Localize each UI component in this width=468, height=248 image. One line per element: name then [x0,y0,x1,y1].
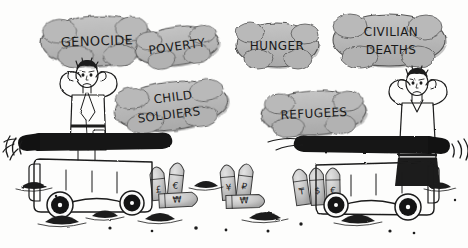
shell-won-b: ₩ [226,194,265,208]
word-bubble-hunger: HUNGER [236,23,320,69]
bubble-label-genocide: GENOCIDE [60,32,133,50]
bubble-label-civilian: CIVILIAN [364,25,418,39]
bubble-label-hunger: HUNGER [250,39,304,53]
shell-won-a: ₩ [159,192,198,208]
bubble-label-deaths: DEATHS [366,43,416,57]
shell-dollar: $ [309,168,326,206]
shell-currency-glyph: ¥ [225,182,232,192]
word-bubble-civilian-deaths: CIVILIAN DEATHS [333,14,447,68]
cartoon-illustration: GENOCIDE POVERTY [0,0,468,248]
shell-currency-glyph: ₩ [172,194,182,204]
cartoon-canvas: GENOCIDE POVERTY [0,0,468,248]
shell-currency-glyph: ₩ [239,195,248,205]
shell-currency-glyph: £ [155,184,162,195]
shell-currency-glyph: $ [314,185,320,195]
